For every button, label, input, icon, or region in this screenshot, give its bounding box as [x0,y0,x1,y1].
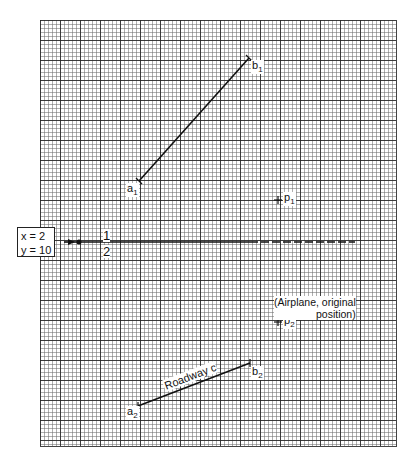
fraction-denominator: 2 [103,245,110,258]
fraction-numerator: 1 [103,229,110,242]
start-coordinates-box: x = 2 y = 10 [17,227,55,257]
diagram-lines [0,0,411,458]
x-value: x = 2 [21,229,54,243]
label-b1: b1 [251,60,264,74]
label-a2: a2 [126,406,139,420]
airplane-note: (Airplane, original position) [274,296,356,320]
label-a1: a1 [126,183,139,197]
segment-a1-b1 [139,58,249,181]
label-p1: p1 [283,192,296,206]
label-b2: b2 [251,366,264,380]
arrow-head-icon [68,239,75,245]
y-value: y = 10 [21,243,54,257]
